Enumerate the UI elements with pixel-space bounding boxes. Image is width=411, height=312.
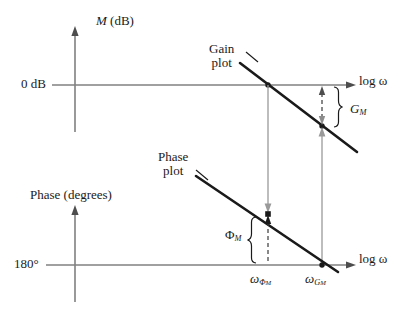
omega-symbol-phim: ω [250,271,259,286]
phase-plot-label-line2: plot [163,163,183,178]
gain-crossover-dropline [265,85,272,213]
phase-x-axis-label: log ω [359,252,387,266]
gain-y-axis-label-unit: (dB) [107,13,134,28]
gain-x-axis-label: log ω [359,74,387,88]
gain-crossover-frequency-label: ωGM [305,272,326,288]
phase-y-axis [71,205,78,302]
gain-margin-arrow [319,86,325,125]
gain-y-axis-label-symbol: M [96,13,107,28]
phase-margin-subscript: M [235,234,242,243]
omega-sub2-phim: M [266,279,272,286]
phase-margin-symbol: Φ [225,227,235,242]
phase-y-axis-label: Phase (degrees) [30,188,112,202]
phase-margin-arrow [265,215,271,262]
gain-y-axis-label: M (dB) [96,14,134,28]
gain-x-axis-zero-db [52,81,356,88]
phase-x-axis-180 [46,261,356,268]
gain-plot-label: Gainplot [209,42,234,70]
gain-plot-label-line2: plot [212,55,232,70]
omega-symbol-gm: ω [305,271,314,286]
gain-plot-leader-line [246,52,258,62]
phase-crossover-riseline [319,127,326,265]
zero-db-label: 0 dB [21,77,46,91]
phase-margin-brace [248,217,257,263]
bode-plot-figure: M (dB) 0 dB Gainplot log ω GM Phase (deg… [0,0,411,312]
phase-plot-label-line1: Phase [158,149,188,164]
figure-canvas [0,0,411,312]
phase-plot-label: Phaseplot [158,150,188,178]
gain-margin-symbol: G [350,101,359,116]
gain-plot-curve [240,63,357,152]
gain-plot-label-line1: Gain [209,41,234,56]
gain-margin-brace [334,87,343,127]
gain-margin-subscript: M [359,108,366,117]
gain-margin-label: GM [350,102,366,118]
phase-crossover-dot [319,262,324,267]
omega-sub2-gm: M [320,279,326,286]
gain-y-axis [71,26,78,132]
phase-margin-label: ΦM [225,228,241,244]
one-eighty-degree-label: 180° [14,257,39,271]
phase-crossover-frequency-label: ωΦM [250,272,271,288]
